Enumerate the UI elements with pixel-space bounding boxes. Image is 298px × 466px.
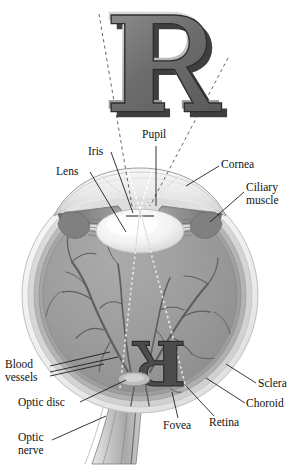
label-optic-disc: Optic disc (18, 396, 65, 409)
label-fovea: Fovea (163, 419, 191, 432)
label-ciliary-muscle: Ciliary muscle (246, 181, 279, 206)
label-choroid: Choroid (246, 397, 284, 410)
label-cornea: Cornea (221, 158, 254, 171)
label-blood-vessels: Blood vessels (5, 358, 38, 383)
leader-cornea (186, 166, 219, 186)
label-lens: Lens (56, 165, 78, 178)
label-pupil: Pupil (142, 128, 166, 141)
object-letter-R (109, 12, 227, 117)
optic-disc (118, 372, 150, 386)
label-sclera: Sclera (258, 377, 287, 390)
label-optic-nerve: Optic nerve (18, 431, 44, 456)
label-iris: Iris (88, 145, 103, 158)
leader-choroid (206, 378, 245, 403)
eye-diagram-figure: Pupil Iris Lens Cornea Ciliary muscle Bl… (0, 0, 298, 466)
leader-sclera (226, 364, 256, 383)
label-retina: Retina (209, 416, 239, 429)
